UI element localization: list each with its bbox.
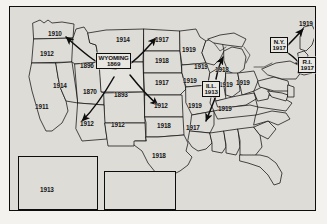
state-label-nevada: 1914 (53, 83, 67, 90)
state-label-arizona: 1912 (80, 121, 94, 128)
figure-page: 1910 1912 1896 1914 1917 1918 1917 1919 … (0, 0, 327, 224)
state-label-kansas: 1912 (154, 103, 168, 110)
state-label-michigan: 1918 (215, 67, 229, 74)
state-label-minnesota: 1919 (182, 47, 196, 54)
map-frame: 1910 1912 1896 1914 1917 1918 1917 1919 … (9, 6, 316, 211)
state-label-colorado: 1893 (114, 92, 128, 99)
highlight-new-york: N.Y. 1917 (270, 37, 288, 53)
state-label-north-dakota: 1917 (155, 37, 169, 44)
highlight-wyoming: WYOMING 1869 (96, 53, 131, 69)
state-label-new-mexico: 1912 (111, 122, 125, 129)
state-label-south-dakota: 1918 (155, 58, 169, 65)
hawaii-inset (104, 171, 176, 210)
highlight-illinois: ILL. 1913 (202, 81, 220, 97)
state-label-washington: 1910 (48, 31, 62, 38)
state-label-nebraska: 1917 (155, 80, 169, 87)
highlight-rhode-island: R.I. 1917 (298, 57, 316, 73)
highlight-new-york-year: 1917 (273, 45, 286, 51)
state-label-oregon: 1912 (40, 51, 54, 58)
state-label-tennessee: 1919 (218, 106, 232, 113)
map-surface: 1910 1912 1896 1914 1917 1918 1917 1919 … (10, 7, 315, 210)
highlight-illinois-year: 1913 (205, 89, 218, 95)
highlight-rhode-island-year: 1917 (301, 65, 314, 71)
state-label-maine: 1919 (299, 21, 313, 28)
state-label-alaska: 1913 (40, 187, 54, 194)
state-label-iowa: 1919 (183, 78, 197, 85)
state-label-oklahoma: 1918 (157, 123, 171, 130)
state-label-indiana: 1919 (219, 82, 233, 89)
state-label-wisconsin: 1919 (194, 64, 208, 71)
highlight-wyoming-year: 1869 (99, 61, 129, 67)
state-label-missouri: 1919 (188, 103, 202, 110)
state-label-idaho: 1896 (80, 63, 94, 70)
state-label-texas: 1918 (152, 153, 166, 160)
state-label-arkansas: 1917 (186, 125, 200, 132)
state-label-california: 1911 (35, 104, 48, 111)
state-label-ohio: 1919 (236, 80, 250, 87)
alaska-inset (18, 156, 98, 210)
state-label-utah: 1870 (83, 89, 97, 96)
state-label-montana: 1914 (116, 37, 130, 44)
